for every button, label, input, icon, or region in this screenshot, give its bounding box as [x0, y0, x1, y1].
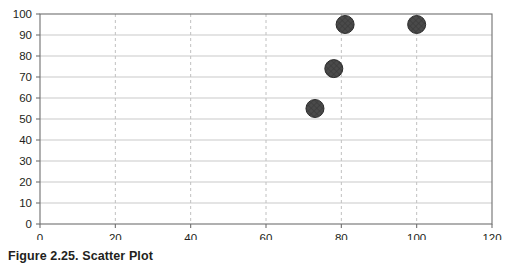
x-axis-tick-label: 60	[260, 232, 273, 240]
chart-svg: 0102030405060708090100 020406080100120	[0, 0, 515, 240]
y-axis-tick-label: 100	[13, 8, 32, 20]
x-axis-tick-label: 20	[109, 232, 122, 240]
data-point	[325, 60, 343, 78]
data-point	[408, 16, 426, 34]
x-axis-tick-label: 120	[482, 232, 501, 240]
figure-container: 0102030405060708090100 020406080100120 F…	[0, 0, 515, 274]
y-axis-tick-label: 40	[19, 134, 32, 146]
data-point	[336, 16, 354, 34]
x-axis-tick-label: 40	[184, 232, 197, 240]
x-axis-tick-label: 80	[335, 232, 348, 240]
y-axis-tick-label: 60	[19, 92, 32, 104]
y-axis-tick-label: 70	[19, 71, 32, 83]
y-axis-tick-label: 30	[19, 155, 32, 167]
x-axis-tick-label: 0	[37, 232, 43, 240]
y-axis-tick-label: 80	[19, 50, 32, 62]
data-point	[306, 100, 324, 118]
y-axis-tick-label: 20	[19, 176, 32, 188]
x-axis-tick-label: 100	[407, 232, 426, 240]
y-axis-tick-label: 90	[19, 29, 32, 41]
y-axis-tick-label: 50	[19, 113, 32, 125]
scatter-plot-chart: 0102030405060708090100 020406080100120	[0, 0, 515, 240]
figure-caption: Figure 2.25. Scatter Plot	[8, 249, 153, 263]
y-axis-ticks: 0102030405060708090100	[13, 8, 40, 230]
y-axis-tick-label: 10	[19, 197, 32, 209]
x-axis-ticks: 020406080100120	[37, 224, 502, 240]
y-axis-tick-label: 0	[26, 218, 32, 230]
